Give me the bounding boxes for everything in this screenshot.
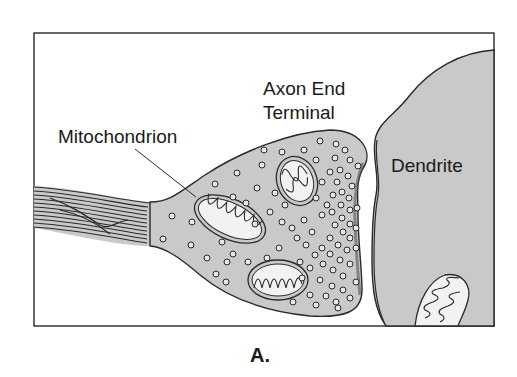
label-axon-end-terminal-line1: Axon End [263, 78, 345, 99]
label-axon-end-terminal-line2: Terminal [263, 102, 335, 123]
synapse-diagram: Axon End Terminal Mitochondrion Dendrite… [0, 0, 517, 377]
mitochondrion-3 [248, 260, 308, 300]
label-mitochondrion: Mitochondrion [58, 126, 177, 147]
panel-label: A. [250, 344, 270, 366]
label-dendrite: Dendrite [391, 155, 463, 176]
